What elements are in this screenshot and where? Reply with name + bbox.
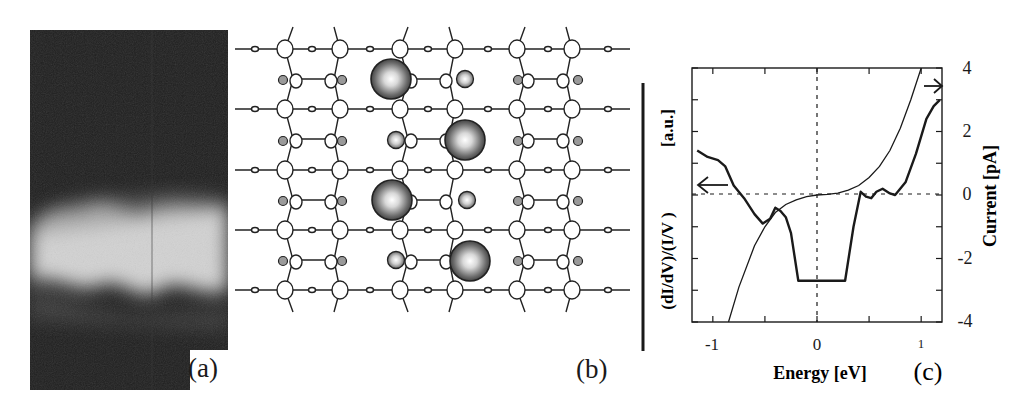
panel-c-label: (c) xyxy=(914,357,943,386)
x-axis-label: Energy [eV] xyxy=(773,363,866,383)
panel-b-label: (b) xyxy=(576,354,607,385)
y-axis-left-unit: [a.u.] xyxy=(658,109,677,147)
panel-a-stm-image: (a) xyxy=(30,30,228,390)
y-tick-label: -2 xyxy=(958,248,973,268)
panel-c-chart: (dI/dV)/(I/V ) [a.u.] -1 0 1 xyxy=(640,0,1030,406)
y-tick-label: 4 xyxy=(963,58,972,78)
x-tick-label: -1 xyxy=(705,335,719,354)
y-axis-left-label: (dI/dV)/(I/V ) [a.u.] xyxy=(658,109,677,310)
y-tick-label: -4 xyxy=(958,311,973,331)
panel-a-label: (a) xyxy=(188,353,218,384)
right-arrow-icon xyxy=(924,79,942,93)
y-tick-label: 2 xyxy=(963,121,972,141)
y-tick-label: 0 xyxy=(963,184,972,204)
normalized-conductance-curve xyxy=(697,100,940,281)
y-right-tick-labels: 4 2 0 -2 -4 xyxy=(958,58,973,331)
x-tick-label: 0 xyxy=(813,335,822,354)
panel-b-lattice-diagram: (b) xyxy=(230,0,630,406)
y-axis-left-quantity: (dI/dV)/(I/V ) xyxy=(658,212,677,309)
x-tick-labels: -1 0 1 xyxy=(705,335,924,354)
lattice-diagram xyxy=(230,0,630,406)
x-tick-label: 1 xyxy=(918,336,925,351)
iv-chart: (dI/dV)/(I/V ) [a.u.] -1 0 1 xyxy=(640,0,1030,406)
y-axis-right-label: Current [pA] xyxy=(980,145,1000,247)
left-arrow-icon xyxy=(698,177,728,193)
stm-image xyxy=(30,30,228,390)
